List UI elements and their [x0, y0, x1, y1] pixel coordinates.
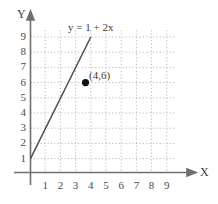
- y-tick-label-6: 6: [14, 77, 26, 88]
- x-tick-label-8: 8: [146, 180, 158, 191]
- y-tick-label-5: 5: [14, 92, 26, 103]
- x-tick-label-5: 5: [100, 180, 112, 191]
- x-tick-label-1: 1: [39, 180, 51, 191]
- y-tick-label-1: 1: [14, 153, 26, 164]
- y-tick-label-9: 9: [14, 31, 26, 42]
- y-axis-label: Y: [17, 8, 26, 20]
- x-tick-label-9: 9: [161, 180, 173, 191]
- y-tick-label-2: 2: [14, 137, 26, 148]
- x-tick-label-6: 6: [115, 180, 127, 191]
- equation-label: y = 1 + 2x: [68, 21, 113, 33]
- x-tick-label-7: 7: [130, 180, 142, 191]
- x-tick-label-4: 4: [85, 180, 97, 191]
- y-tick-label-7: 7: [14, 61, 26, 72]
- series-line-y-equals-1-plus-2x: [31, 37, 91, 159]
- x-tick-label-3: 3: [70, 180, 82, 191]
- x-axis-label: X: [200, 166, 209, 178]
- chart-canvas: 9 8 7 6 5 4 3 2 1 1 2 3 4 5 6 7 8 9 Y X …: [0, 0, 218, 204]
- x-tick-label-2: 2: [54, 180, 66, 191]
- point-coordinate-label: (4,6): [89, 69, 110, 81]
- y-tick-label-4: 4: [14, 107, 26, 118]
- y-tick-label-8: 8: [14, 46, 26, 57]
- y-tick-label-3: 3: [14, 122, 26, 133]
